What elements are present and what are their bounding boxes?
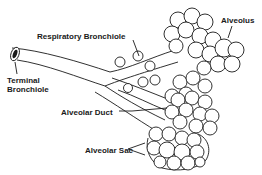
terminal-bronchiole-label-line1: Terminal [7, 76, 49, 85]
alveoli-diagram: Respiratory Bronchiole Alveolus Terminal… [0, 0, 262, 175]
alveolar-sac-label: Alveolar Sac [85, 146, 133, 155]
alveolar-duct-label: Alveolar Duct [61, 108, 113, 117]
alveolus-label: Alveolus [221, 16, 254, 25]
respiratory-bronchiole-label: Respiratory Bronchiole [37, 32, 125, 41]
terminal-bronchiole-label: Terminal Bronchiole [7, 76, 49, 94]
terminal-bronchiole-label-line2: Bronchiole [7, 85, 49, 94]
bronchiole-alveoli-buds [115, 51, 160, 93]
alveolar-sac-cluster [147, 127, 209, 170]
